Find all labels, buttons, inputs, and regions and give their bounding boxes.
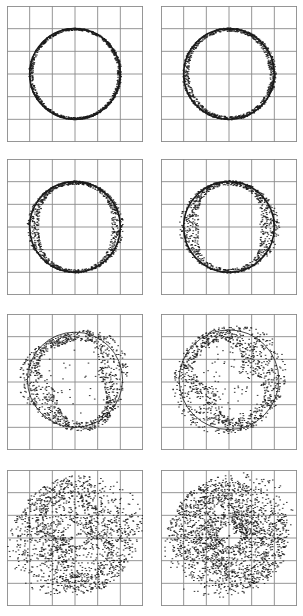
plot-panel-1 (7, 6, 143, 142)
plot-panel-8 (161, 470, 297, 606)
panel-plot (161, 6, 297, 142)
panel-plot (7, 159, 143, 295)
plot-panel-5 (7, 314, 143, 450)
plot-panel-6 (161, 314, 297, 450)
plot-panel-3 (7, 159, 143, 295)
plot-panel-7 (7, 470, 143, 606)
panel-plot (7, 314, 143, 450)
particle-points (20, 330, 128, 430)
panel-plot (161, 159, 297, 295)
plot-panel-2 (161, 6, 297, 142)
plot-panel-4 (161, 159, 297, 295)
panel-plot (161, 314, 297, 450)
panel-plot (161, 470, 297, 606)
panel-plot (7, 470, 143, 606)
panel-plot (7, 6, 143, 142)
